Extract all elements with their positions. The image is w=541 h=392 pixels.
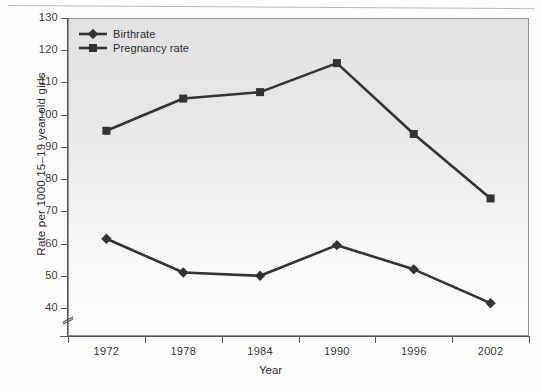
diamond-marker: [78, 28, 108, 40]
x-axis-tick: [299, 336, 300, 343]
legend-item: Pregnancy rate: [78, 41, 189, 55]
y-axis-title: Rate per 1000 15–19 year old girls: [35, 59, 47, 269]
diamond-marker: [409, 264, 419, 274]
square-marker: [410, 130, 418, 138]
legend-label: Pregnancy rate: [113, 42, 189, 54]
y-axis-line: [67, 18, 68, 336]
legend-item: Birthrate: [78, 27, 189, 41]
y-axis-tick-label: 120: [32, 43, 58, 55]
diamond-marker: [332, 240, 342, 250]
x-axis-tick-label: 1972: [76, 345, 136, 357]
y-axis-tick: [61, 82, 68, 83]
diamond-marker: [178, 267, 188, 277]
x-axis-tick: [68, 336, 69, 343]
y-axis-tick: [61, 50, 68, 51]
y-axis-tick: [61, 244, 68, 245]
y-axis-tick: [61, 115, 68, 116]
x-axis-tick-label: 1978: [153, 345, 213, 357]
x-axis-tick: [452, 336, 453, 343]
y-axis-tick: [61, 18, 68, 19]
legend-label: Birthrate: [113, 28, 155, 40]
y-axis-tick: [61, 276, 68, 277]
chart-legend: BirthratePregnancy rate: [78, 27, 189, 55]
diamond-marker: [101, 234, 111, 244]
square-marker: [487, 194, 495, 202]
series-line: [106, 63, 490, 198]
x-axis-tick: [222, 336, 223, 343]
page-rule: [8, 5, 535, 9]
chart-figure: 130120110100908070605040 Rate per 1000 1…: [0, 0, 541, 392]
x-axis-tick: [375, 336, 376, 343]
x-axis-tick: [529, 336, 530, 343]
series-line: [106, 239, 490, 303]
square-marker: [256, 88, 264, 96]
y-axis-tick-label: 130: [32, 11, 58, 23]
x-axis-line: [60, 336, 529, 337]
y-axis-tick: [61, 147, 68, 148]
y-axis-tick: [61, 179, 68, 180]
x-axis-tick-label: 1996: [384, 345, 444, 357]
square-marker: [89, 44, 97, 52]
x-axis-tick-label: 2002: [461, 345, 521, 357]
x-axis-tick-label: 1984: [230, 345, 290, 357]
square-marker: [78, 42, 108, 54]
axis-break-icon: [61, 312, 75, 328]
x-axis-tick-label: 1990: [307, 345, 367, 357]
square-marker: [102, 127, 110, 135]
diamond-marker: [255, 271, 265, 281]
x-axis-tick: [145, 336, 146, 343]
diamond-marker: [485, 298, 495, 308]
series-layer: [68, 18, 529, 336]
square-marker: [333, 59, 341, 67]
y-axis-tick-label: 40: [32, 301, 58, 313]
y-axis-tick-label: 50: [32, 269, 58, 281]
diamond-marker: [88, 29, 98, 39]
square-marker: [179, 95, 187, 103]
y-axis-tick: [61, 211, 68, 212]
y-axis-tick: [61, 308, 68, 309]
x-axis-title: Year: [0, 364, 541, 376]
